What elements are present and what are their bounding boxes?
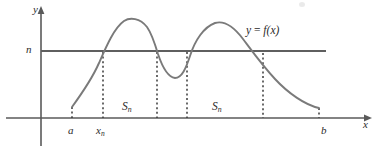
y-axis-arrow-icon — [38, 6, 45, 14]
y-axis-label: y — [33, 4, 38, 15]
tick-label-a: a — [68, 125, 74, 136]
function-annotation-rhs: f(x) — [263, 24, 279, 36]
region-label-sn-1: Sn — [122, 101, 132, 114]
scan-artifact-speck — [299, 2, 305, 7]
math-figure: y n x a xn b Sn Sn y = f(x) — [0, 0, 378, 150]
x-axis-label: x — [363, 119, 368, 130]
region-label-sn-2-subscript: n — [218, 105, 222, 114]
function-annotation-equals: = — [251, 24, 263, 36]
tick-label-xn: xn — [96, 125, 105, 137]
level-label-n: n — [26, 44, 32, 55]
region-label-sn-1-subscript: n — [128, 105, 132, 114]
function-annotation: y = f(x) — [246, 25, 279, 37]
function-curve — [72, 19, 319, 108]
tick-label-xn-subscript: n — [101, 129, 105, 138]
region-label-sn-2: Sn — [212, 101, 222, 114]
tick-label-b: b — [321, 125, 327, 136]
